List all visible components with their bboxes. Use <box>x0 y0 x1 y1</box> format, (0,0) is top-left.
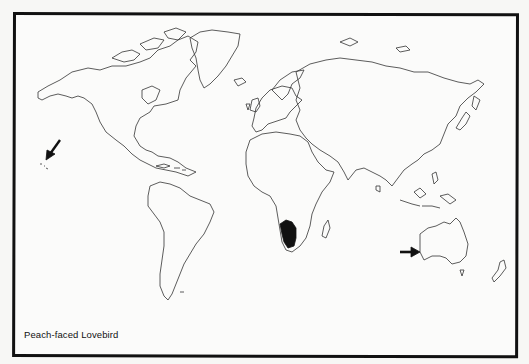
arrow-icon-hawaii <box>46 140 60 160</box>
kamchatka <box>472 96 480 110</box>
indonesia <box>400 188 456 208</box>
native-range-southwest-africa <box>280 220 296 248</box>
madagascar <box>322 220 330 238</box>
map-caption: Peach-faced Lovebird <box>24 329 118 340</box>
iceland <box>234 78 246 86</box>
hudson-bay <box>142 86 160 104</box>
world-map <box>0 0 529 364</box>
new-zealand <box>492 260 506 282</box>
australia-outline <box>420 218 468 264</box>
tasmania <box>460 270 464 276</box>
europe-outline <box>252 86 302 132</box>
sri-lanka <box>376 186 380 192</box>
asia-outline <box>296 58 484 186</box>
arctic-russia-islands <box>340 38 410 52</box>
arrow-icon-australia <box>400 247 420 257</box>
arctic-islands <box>112 28 186 62</box>
south-america-outline <box>148 182 214 300</box>
hawaii-islands <box>40 164 48 169</box>
philippines <box>432 172 438 184</box>
north-america-outline <box>38 36 198 176</box>
greenland <box>190 30 240 88</box>
japan <box>456 112 470 130</box>
